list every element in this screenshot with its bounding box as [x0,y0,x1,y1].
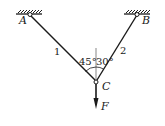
pin-a [28,13,32,17]
angle-arc-30 [96,67,104,69]
pin-b [135,13,139,17]
load-arrow-head-icon [94,98,99,109]
label-a: A [19,15,27,26]
label-c: C [102,81,110,92]
pin-c [94,80,98,84]
member-1 [30,15,95,80]
label-b: B [142,15,150,26]
label-member-2: 2 [120,46,126,56]
angle-arc-45 [85,67,96,71]
label-member-1: 1 [54,47,60,57]
member-2 [97,15,137,80]
label-f: F [101,101,109,112]
label-angle-30: 30° [96,57,114,67]
label-angle-45: 45° [79,57,97,67]
